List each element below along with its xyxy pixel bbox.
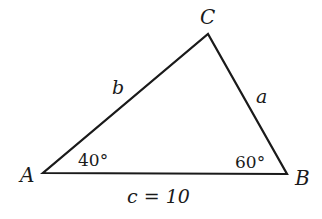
side-label-b: b	[112, 76, 124, 98]
angle-label-b: 60°	[235, 152, 265, 172]
vertex-label-a: A	[18, 163, 34, 187]
side-label-c: c = 10	[127, 185, 190, 207]
angle-label-a: 40°	[78, 150, 108, 170]
triangle-diagram: A B C b a c = 10 40° 60°	[0, 0, 322, 219]
side-label-a: a	[256, 85, 267, 107]
vertex-label-c: C	[200, 5, 215, 29]
vertex-label-b: B	[294, 166, 310, 190]
